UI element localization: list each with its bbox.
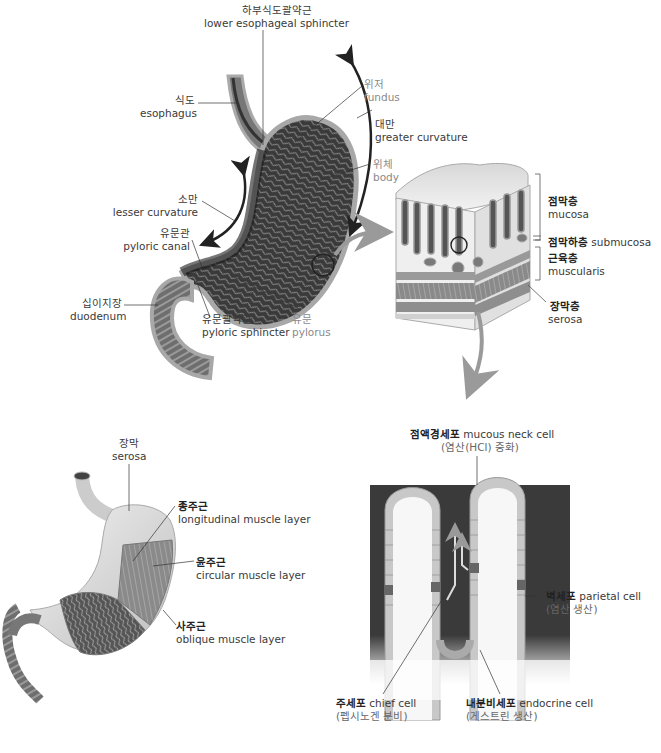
label-pyloric-canal: 유문관 pyloric canal: [110, 227, 190, 253]
label-duodenum: 십이지장 duodenum: [70, 297, 122, 323]
label-serosa-layer: 장막층 serosa: [548, 300, 582, 326]
muscle-layers-illustration: [7, 472, 175, 700]
label-mucosa: 점막층 mucosa: [548, 195, 589, 221]
label-greater-curvature: 대만 greater curvature: [375, 118, 468, 144]
label-submucosa: 점막하층 submucosa: [548, 236, 651, 249]
gastric-gland-illustration: [370, 478, 570, 721]
stomach-wall-block: [396, 163, 530, 330]
label-serosa: 장막 serosa: [112, 437, 146, 463]
label-esophagus: 식도 esophagus: [140, 94, 195, 120]
label-circular-muscle: 윤주근 circular muscle layer: [196, 556, 305, 582]
label-chief-cell: 주세포 chief cell (펩시노겐 분비): [336, 697, 416, 723]
label-body: 위체 body: [373, 158, 399, 184]
label-pylorus: 유문 pylorus: [292, 313, 331, 339]
label-muscularis: 근육층 muscularis: [548, 252, 605, 278]
label-longitudinal-muscle: 종주근 longitudinal muscle layer: [178, 500, 310, 526]
anatomy-artwork: [0, 0, 661, 753]
label-fundus: 위저 fundus: [364, 78, 400, 104]
label-lower-esophageal-sphincter: 하부식도괄약근 lower esophageal sphincter: [204, 4, 349, 30]
label-endocrine-cell: 내분비세포 endocrine cell (게스트린 생산): [466, 697, 593, 723]
label-parietal-cell: 벽세포 parietal cell (염산 생산): [546, 590, 641, 616]
label-mucous-neck-cell: 점액경세포 mucous neck cell (염산(HCl) 중화): [410, 428, 550, 454]
label-pyloric-sphincter: 유문괄약근 pyloric sphincter: [202, 313, 290, 339]
layer-brackets: [528, 174, 546, 302]
label-oblique-muscle: 사주근 oblique muscle layer: [176, 620, 285, 646]
label-lesser-curvature: 소만 lesser curvature: [100, 193, 198, 219]
